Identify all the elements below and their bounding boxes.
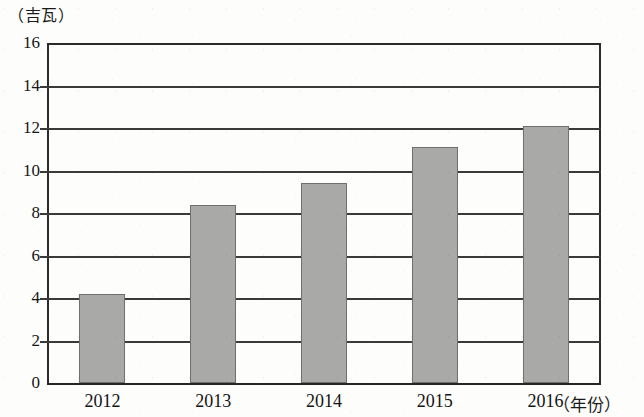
gridline-14: [47, 86, 601, 88]
gridline-16: [47, 43, 601, 45]
y-axis-label-4: 4: [6, 288, 40, 308]
x-axis-label-2014: 2014: [306, 391, 342, 412]
y-axis-unit-caption: （吉瓦）: [8, 2, 74, 26]
y-axis-tick-4: [40, 298, 47, 300]
y-axis-tick-10: [40, 171, 47, 173]
bar-2013: [190, 205, 236, 384]
y-axis-label-14: 14: [6, 76, 40, 96]
plot-area: [47, 43, 601, 383]
chart-page: （吉瓦） 1614121086420 20122013201420152016 …: [0, 0, 644, 417]
y-axis-tick-8: [40, 213, 47, 215]
y-axis-tick-12: [40, 128, 47, 130]
x-axis-label-2012: 2012: [84, 391, 120, 412]
y-axis-label-0: 0: [6, 373, 40, 393]
y-axis-label-2: 2: [6, 331, 40, 351]
bar-2014: [301, 183, 347, 383]
gridline-10: [47, 171, 601, 173]
y-axis-tick-14: [40, 86, 47, 88]
y-axis-tick-6: [40, 256, 47, 258]
x-axis-title: （年份）: [553, 391, 621, 416]
x-axis-label-2015: 2015: [417, 391, 453, 412]
x-axis-label-2013: 2013: [195, 391, 231, 412]
y-axis-label-16: 16: [6, 33, 40, 53]
y-axis-label-8: 8: [6, 203, 40, 223]
gridline-12: [47, 128, 601, 130]
gridline-0: [47, 383, 601, 385]
bar-2012: [79, 294, 125, 383]
y-axis-label-6: 6: [6, 246, 40, 266]
bar-2016: [523, 126, 569, 383]
y-axis-tick-2: [40, 341, 47, 343]
y-axis-label-10: 10: [6, 161, 40, 181]
bar-2015: [412, 147, 458, 383]
y-axis-label-12: 12: [6, 118, 40, 138]
